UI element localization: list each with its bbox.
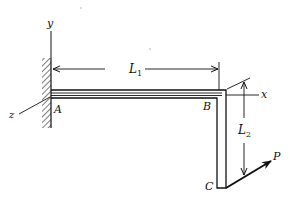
load-p: P xyxy=(226,150,281,188)
y-axis: y xyxy=(46,17,54,58)
point-c-label: C xyxy=(205,180,214,193)
dimension-l2: L2 xyxy=(227,78,251,175)
cantilever-diagram: y z L1 x L2 P A B C xyxy=(0,0,290,198)
dimension-l1: L1 xyxy=(53,62,219,90)
scan-speck xyxy=(80,7,81,8)
beam-ab xyxy=(51,90,226,188)
x-axis: x xyxy=(226,88,268,101)
fixed-wall-support xyxy=(42,58,51,128)
x-axis-label: x xyxy=(261,88,268,101)
y-axis-label: y xyxy=(46,17,54,30)
z-axis-label: z xyxy=(8,109,15,120)
load-p-label: P xyxy=(272,150,281,163)
point-b-label: B xyxy=(202,100,211,113)
point-a-label: A xyxy=(53,103,62,116)
length-l1-label: L1 xyxy=(128,62,142,78)
length-l2-label: L2 xyxy=(237,123,251,139)
scan-speck xyxy=(149,48,150,49)
